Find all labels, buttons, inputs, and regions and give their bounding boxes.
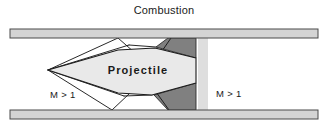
figure-canvas: Combustion Projectile M > 1 M > 1 [0,0,328,127]
projectile-label: Projectile [78,64,198,76]
mach-number-label-left: M > 1 [50,89,76,100]
combustion-label: Combustion [0,4,328,16]
shock-reflection-upper-2 [129,45,156,47]
pale-band-region [198,38,208,110]
tube-wall-bottom [10,110,318,119]
mach-number-label-right: M > 1 [216,88,242,99]
tube-wall-top [10,29,318,38]
